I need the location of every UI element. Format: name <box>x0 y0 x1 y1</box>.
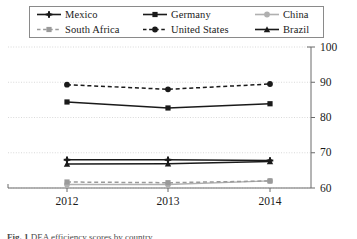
y-tick-label-80: 80 <box>320 111 332 123</box>
legend-label-brazil: Brazil <box>283 24 309 35</box>
line-chart-plot-area: 60708090100201220132014 <box>0 38 357 218</box>
x-tick-label-2012: 2012 <box>56 195 79 207</box>
figure-caption-text: DEA efficiency scores by country <box>31 232 153 239</box>
figure-caption: Fig. 1 DEA efficiency scores by country <box>7 232 352 239</box>
legend-item-mexico[interactable]: Mexico <box>30 9 136 20</box>
chart-svg: 60708090100201220132014 <box>0 38 357 218</box>
legend-label-germany: Germany <box>171 9 211 20</box>
legend-item-united-states[interactable]: United States <box>136 24 248 35</box>
x-tick-label-2013: 2013 <box>157 195 180 207</box>
legend-item-germany[interactable]: Germany <box>136 9 248 20</box>
legend-item-brazil[interactable]: Brazil <box>248 24 325 35</box>
brazil-series-key-icon <box>254 24 280 35</box>
legend-label-china: China <box>283 9 309 20</box>
legend-item-south-africa[interactable]: South Africa <box>30 24 136 35</box>
legend-label-south-africa: South Africa <box>65 24 120 35</box>
legend-label-mexico: Mexico <box>65 9 98 20</box>
figure-caption-prefix: Fig. 1 <box>7 232 29 239</box>
legend-label-united-states: United States <box>171 24 229 35</box>
legend-item-china[interactable]: China <box>248 9 325 20</box>
y-tick-label-70: 70 <box>320 146 332 158</box>
germany-series-key-icon <box>142 9 168 20</box>
x-tick-label-2014: 2014 <box>259 195 282 207</box>
chart-legend: Mexico Germany China South Africa United… <box>29 6 324 38</box>
y-tick-label-90: 90 <box>320 76 332 88</box>
series-germany <box>64 99 272 110</box>
south-africa-series-key-icon <box>36 24 62 35</box>
series-united-states <box>64 81 273 92</box>
y-tick-label-100: 100 <box>320 41 338 53</box>
mexico-series-key-icon <box>36 9 62 20</box>
china-series-key-icon <box>254 9 280 20</box>
y-tick-label-60: 60 <box>320 182 332 194</box>
legend-grid: Mexico Germany China South Africa United… <box>30 7 323 37</box>
united-states-series-key-icon <box>142 24 168 35</box>
